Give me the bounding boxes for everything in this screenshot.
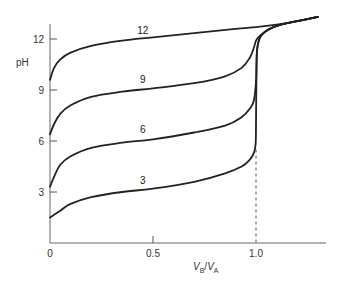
y-tick-label: 12 [33, 34, 45, 45]
titration-chart: 36912 00.51.0 12963 pH VB/VA [0, 0, 344, 283]
x-ticks: 00.51.0 [47, 236, 263, 259]
curve-label-3: 3 [140, 175, 146, 186]
y-tick-label: 3 [38, 187, 44, 198]
series [50, 17, 318, 218]
x-axis-title-sub2: A [214, 267, 219, 274]
curve-label-12: 12 [137, 25, 149, 36]
x-tick-label: 0.5 [146, 248, 160, 259]
curve-initial-ph-3 [50, 17, 318, 218]
y-tick-label: 6 [38, 136, 44, 147]
y-ticks: 36912 [33, 34, 57, 198]
x-tick-label: 0 [47, 248, 53, 259]
y-axis-title: pH [16, 57, 29, 68]
x-axis-title: VB/VA [193, 261, 219, 274]
curve-label-6: 6 [140, 124, 146, 135]
curve-initial-ph-6 [50, 17, 318, 187]
series-labels: 12963 [137, 25, 149, 186]
y-tick-label: 9 [38, 85, 44, 96]
x-tick-label: 1.0 [249, 248, 263, 259]
curve-label-9: 9 [140, 74, 146, 85]
